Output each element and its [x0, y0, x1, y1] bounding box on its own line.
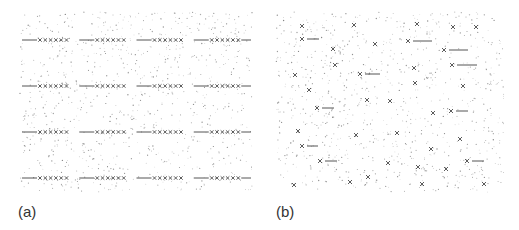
dot: [278, 71, 279, 72]
dot: [417, 103, 418, 104]
dot: [318, 180, 319, 181]
dot: [374, 138, 375, 139]
dot: [424, 159, 425, 160]
dot: [321, 124, 322, 125]
dot: [133, 179, 134, 180]
dot: [76, 83, 77, 84]
dot: [211, 29, 212, 30]
dot: [179, 75, 180, 76]
dot: [116, 118, 117, 119]
dot: [332, 103, 333, 104]
dot: [151, 14, 152, 15]
dot: [472, 177, 473, 178]
dot: [182, 47, 183, 48]
dot: [221, 22, 222, 23]
cross-mark-icon: [406, 39, 410, 43]
dot: [187, 26, 188, 27]
dot: [363, 122, 364, 123]
dot: [362, 158, 363, 159]
dot: [245, 30, 246, 31]
dot: [175, 57, 176, 58]
dot: [58, 140, 59, 141]
dot: [71, 142, 72, 143]
dot: [54, 128, 55, 129]
dot: [192, 56, 193, 57]
dot: [35, 108, 36, 109]
dot: [503, 94, 504, 95]
dot: [122, 44, 123, 45]
dot: [496, 84, 497, 85]
dot: [359, 144, 360, 145]
dot: [23, 116, 24, 117]
cross-mark-icon: [101, 176, 104, 179]
cross-mark-icon: [307, 88, 311, 92]
dot: [215, 112, 216, 113]
dot: [235, 33, 236, 34]
dot: [436, 63, 437, 64]
dot: [50, 91, 51, 92]
dot: [394, 102, 395, 103]
dot: [309, 155, 310, 156]
dot: [98, 168, 99, 169]
dot: [66, 51, 67, 52]
dot: [228, 59, 229, 60]
dot: [400, 158, 401, 159]
dot: [424, 190, 425, 191]
dot: [347, 114, 348, 115]
dot: [103, 22, 104, 23]
figure-canvas: [0, 0, 519, 230]
dot: [360, 174, 361, 175]
dot: [420, 118, 421, 119]
dot: [339, 149, 340, 150]
dot: [361, 179, 362, 180]
dot: [40, 62, 41, 63]
dot: [344, 104, 345, 105]
dot: [397, 146, 398, 147]
dot: [163, 26, 164, 27]
dot: [197, 167, 198, 168]
dot: [491, 84, 492, 85]
dot: [381, 61, 382, 62]
dot: [246, 161, 247, 162]
dot: [324, 27, 325, 28]
dot: [369, 141, 370, 142]
cross-mark-icon: [210, 84, 213, 87]
dot: [189, 181, 190, 182]
cross-mark-icon: [231, 130, 234, 133]
dot: [287, 102, 288, 103]
dot: [96, 53, 97, 54]
dot: [290, 77, 291, 78]
dot: [298, 51, 299, 52]
dot: [400, 26, 401, 27]
dot: [293, 55, 294, 56]
dot: [213, 105, 214, 106]
dot: [242, 83, 243, 84]
dot: [34, 113, 35, 114]
dot: [372, 170, 373, 171]
dot: [108, 170, 109, 171]
dot: [146, 16, 147, 17]
dot: [484, 142, 485, 143]
dot: [65, 56, 66, 57]
dot: [481, 167, 482, 168]
dot: [482, 170, 483, 171]
cross-mark-icon: [111, 84, 114, 87]
dot: [279, 126, 280, 127]
dot: [329, 146, 330, 147]
dot: [459, 182, 460, 183]
dot: [339, 46, 340, 47]
dot: [290, 101, 291, 102]
dot: [357, 17, 358, 18]
cross-mark-icon: [293, 73, 297, 77]
dot: [63, 72, 64, 73]
dot: [340, 16, 341, 17]
dot: [332, 56, 333, 57]
dot: [430, 77, 431, 78]
dot: [326, 113, 327, 114]
dot: [341, 157, 342, 158]
dot: [427, 164, 428, 165]
dot: [283, 111, 284, 112]
dot: [250, 189, 251, 190]
dot: [181, 181, 182, 182]
dot: [103, 25, 104, 26]
